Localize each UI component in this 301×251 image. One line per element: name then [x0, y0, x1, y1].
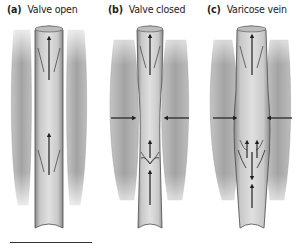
panel-c	[204, 22, 299, 228]
panel-b	[104, 22, 196, 228]
panel-a	[8, 20, 92, 228]
vein-valve-diagram	[0, 0, 301, 251]
bottom-rule	[10, 242, 92, 243]
